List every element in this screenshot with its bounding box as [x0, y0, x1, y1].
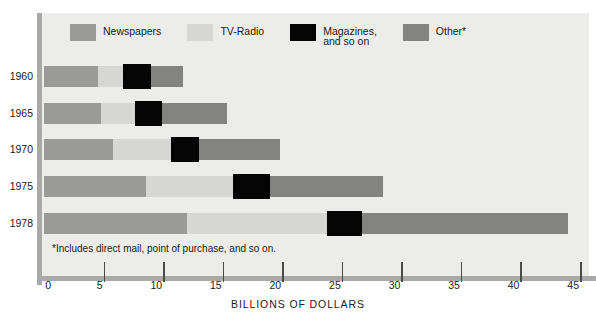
y-axis-rule: [37, 13, 42, 285]
chart-legend: NewspapersTV-RadioMagazines, and so onOt…: [70, 24, 492, 46]
footnote: *Includes direct mail, point of purchase…: [52, 243, 276, 254]
bar-row: [44, 213, 568, 234]
legend-item: Magazines, and so on: [290, 24, 377, 46]
x-tick-mark: [223, 262, 225, 282]
bar-segment-newspapers: [44, 139, 113, 160]
x-tick-label: 5: [97, 279, 104, 291]
bar-row: [44, 103, 227, 124]
bar-segment-other-: [162, 103, 228, 124]
x-tick-label: 45: [567, 279, 580, 291]
bar-segment-magazines: [123, 64, 152, 89]
bar-row: [44, 66, 183, 87]
legend-label: Magazines, and so on: [323, 24, 377, 46]
legend-label: TV-Radio: [220, 24, 264, 37]
x-tick-mark: [163, 262, 165, 282]
legend-item: Newspapers: [70, 24, 161, 41]
x-tick-mark: [580, 262, 582, 282]
x-tick-label: 15: [210, 279, 223, 291]
plot-area: [44, 66, 580, 236]
x-tick-mark: [401, 262, 403, 282]
x-axis-title: BILLIONS OF DOLLARS: [0, 298, 596, 310]
x-tick-label: 35: [448, 279, 461, 291]
year-label-1970: 1970: [0, 143, 33, 155]
x-tick-label: 30: [389, 279, 402, 291]
x-tick-label: 20: [270, 279, 283, 291]
bar-segment-magazines: [327, 211, 362, 236]
bar-row: [44, 139, 280, 160]
bar-segment-other-: [199, 139, 280, 160]
x-tick-label: 0: [45, 279, 52, 291]
bar-segment-newspapers: [44, 213, 187, 234]
bar-segment-other-: [362, 213, 568, 234]
bar-segment-newspapers: [44, 103, 101, 124]
x-tick-label: 10: [150, 279, 163, 291]
bar-segment-magazines: [171, 137, 198, 162]
bar-segment-tv-radio: [113, 139, 171, 160]
bar-segment-magazines: [135, 101, 162, 126]
x-tick-mark: [342, 262, 344, 282]
legend-swatch-icon: [187, 24, 213, 41]
x-axis: 051015202530354045: [44, 262, 580, 302]
year-label-1978: 1978: [0, 217, 33, 229]
legend-swatch-icon: [290, 24, 316, 41]
bar-segment-magazines: [233, 174, 270, 199]
legend-label: Other*: [436, 24, 466, 37]
year-label-1975: 1975: [0, 180, 33, 192]
bar-segment-newspapers: [44, 176, 146, 197]
legend-label: Newspapers: [103, 24, 161, 37]
legend-swatch-icon: [70, 24, 96, 41]
bar-segment-tv-radio: [187, 213, 328, 234]
x-tick-mark: [520, 262, 522, 282]
legend-swatch-icon: [403, 24, 429, 41]
x-tick-label: 25: [329, 279, 342, 291]
x-tick-mark: [282, 262, 284, 282]
year-label-1960: 1960: [0, 70, 33, 82]
x-tick-label: 40: [508, 279, 521, 291]
bar-segment-tv-radio: [98, 66, 123, 87]
x-tick-mark: [104, 262, 106, 282]
bar-row: [44, 176, 383, 197]
advertising-expenditure-chart: NewspapersTV-RadioMagazines, and so onOt…: [0, 0, 596, 321]
bar-segment-other-: [270, 176, 383, 197]
bar-segment-newspapers: [44, 66, 98, 87]
legend-item: Other*: [403, 24, 466, 41]
bar-segment-tv-radio: [101, 103, 134, 124]
x-tick-mark: [461, 262, 463, 282]
legend-item: TV-Radio: [187, 24, 264, 41]
bar-segment-other-: [151, 66, 183, 87]
bar-segment-tv-radio: [146, 176, 233, 197]
year-label-1965: 1965: [0, 107, 33, 119]
